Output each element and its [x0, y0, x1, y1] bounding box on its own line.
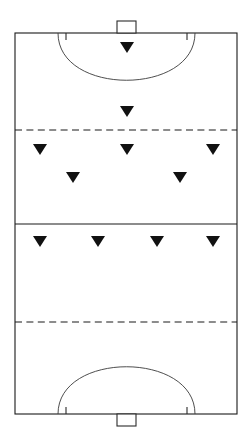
diagram-background — [0, 0, 252, 443]
pitch-canvas — [0, 0, 252, 443]
top-goal — [117, 21, 136, 33]
field-hockey-pitch-diagram — [0, 0, 252, 443]
bottom-goal — [117, 414, 136, 426]
